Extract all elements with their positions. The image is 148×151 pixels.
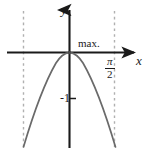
fraction-pi-over-two: π 2 xyxy=(105,56,115,80)
plot-canvas xyxy=(0,0,148,151)
fraction-numerator: π xyxy=(105,56,115,68)
pi-over-two-label: π 2 xyxy=(105,56,115,80)
y-axis-label: y xyxy=(61,3,67,16)
y-tick-label-negative-one: -1 xyxy=(60,92,70,104)
graph-figure: y x max. -1 π 2 xyxy=(0,0,148,151)
fraction-denominator: 2 xyxy=(105,69,115,81)
maximum-point-marker xyxy=(68,51,71,54)
x-axis-label: x xyxy=(136,54,142,67)
maximum-annotation-label: max. xyxy=(78,38,100,49)
